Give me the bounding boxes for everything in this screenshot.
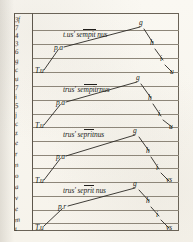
margin-mark: n <box>15 160 33 169</box>
chant-phrase-1: t.us' sempit nus <box>63 31 107 39</box>
note-label-peak: g <box>136 74 140 82</box>
note-label-end: u <box>170 68 174 76</box>
staff-line <box>33 58 179 59</box>
note-label-asc: p.a <box>56 153 65 161</box>
note-label-end: vs <box>166 224 172 232</box>
margin-mark: o <box>15 171 33 180</box>
margin-mark: j <box>15 110 33 119</box>
phrase-post: nus <box>94 186 106 195</box>
phrase-macron: prit <box>84 130 94 139</box>
page-edge-shadow <box>0 0 14 242</box>
phrase-pre: trus' se <box>63 85 84 94</box>
phrase-macron: mpit <box>84 85 97 94</box>
margin-mark: g <box>15 56 33 65</box>
staff-line <box>33 141 179 142</box>
note-label-desc: h <box>146 147 150 155</box>
phrase-post: rnus <box>97 85 110 94</box>
margin-mark: c <box>15 119 33 128</box>
note-label-start: T.u <box>35 122 44 130</box>
margin-mark: z <box>15 128 33 137</box>
staff-line <box>33 196 179 197</box>
note-label-start: T.u <box>35 67 44 75</box>
note-label-desc: h <box>148 94 152 102</box>
manuscript-page: 3f 7 4 3 6 g c u 7 i 5 j c z e r n o a v… <box>0 0 193 242</box>
note-label-end: vs <box>166 176 172 184</box>
note-label-start: T.u <box>35 177 44 185</box>
margin-mark: a <box>15 182 33 191</box>
phrase-pre: trus' se <box>63 186 84 195</box>
note-label-desc: i <box>156 164 158 172</box>
margin-mark: u <box>15 74 33 83</box>
phrase-macron: mpit <box>83 30 96 39</box>
marginal-annotation-column: 3f 7 4 3 6 g c u 7 i 5 j c z e r n o a v… <box>14 13 33 231</box>
note-label-desc: h <box>150 39 154 47</box>
chant-phrase-2: trus' sempitrnus <box>63 86 109 94</box>
phrase-post: nus <box>96 30 108 39</box>
margin-mark: e <box>15 138 33 147</box>
note-label-peak: g <box>133 127 137 135</box>
staff-line <box>33 72 179 73</box>
note-label-start: T.u <box>35 224 44 232</box>
chant-phrase-3: trus' sepritnus <box>63 131 104 139</box>
staff-line <box>33 100 179 101</box>
margin-mark: 5 <box>15 101 33 110</box>
margin-mark: v <box>15 193 33 202</box>
margin-mark: t <box>15 224 33 231</box>
note-label-peak: g <box>133 180 137 188</box>
phrase-macron: prit <box>84 186 94 195</box>
note-label-desc: i <box>160 55 162 63</box>
note-label-asc: p.r <box>58 203 66 211</box>
margin-mark: r <box>15 149 33 158</box>
note-label-desc: h <box>146 197 150 205</box>
margin-mark: 6 <box>15 47 33 56</box>
note-label-asc: p.a <box>56 99 65 107</box>
phrase-pre: trus' se <box>63 130 84 139</box>
chant-phrase-4: trus' seprit nus <box>63 187 106 195</box>
margin-mark: e <box>15 204 33 213</box>
staff-line <box>33 155 179 156</box>
note-label-asc: p.a <box>54 44 63 52</box>
margin-mark: m <box>15 215 33 224</box>
margin-mark: c <box>15 65 33 74</box>
phrase-post: nus <box>94 130 104 139</box>
staff-line <box>33 223 179 224</box>
note-label-desc: i <box>158 110 160 118</box>
margin-mark: i <box>15 92 33 101</box>
phrase-pre: t.us' se <box>63 30 83 39</box>
note-label-desc: i <box>156 211 158 219</box>
note-label-end: u <box>169 123 173 131</box>
staff-line <box>33 182 179 183</box>
staff-line <box>33 127 179 128</box>
margin-mark: 7 <box>15 83 33 92</box>
note-label-peak: g <box>139 19 143 27</box>
